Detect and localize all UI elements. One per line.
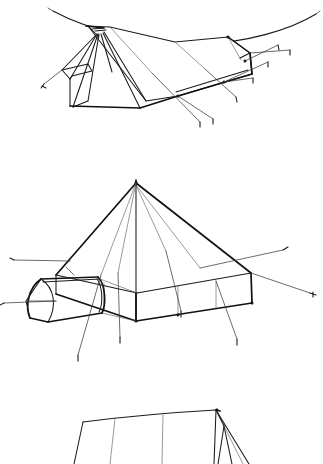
figure-2-bell-tent-with-tunnel-entrance: [0, 155, 323, 370]
figure-sheet: Tent Pitching Line Drawings Open-sided f…: [0, 0, 323, 464]
ridge-seam: [83, 409, 220, 422]
panel-seams: [74, 410, 216, 464]
figure-3-wall-tent-partial-view: [0, 380, 323, 464]
roof-panels: [56, 180, 251, 293]
end-pole-frame: [216, 410, 249, 464]
figure-1-ridge-fly-tarp-tent: [0, 0, 323, 155]
